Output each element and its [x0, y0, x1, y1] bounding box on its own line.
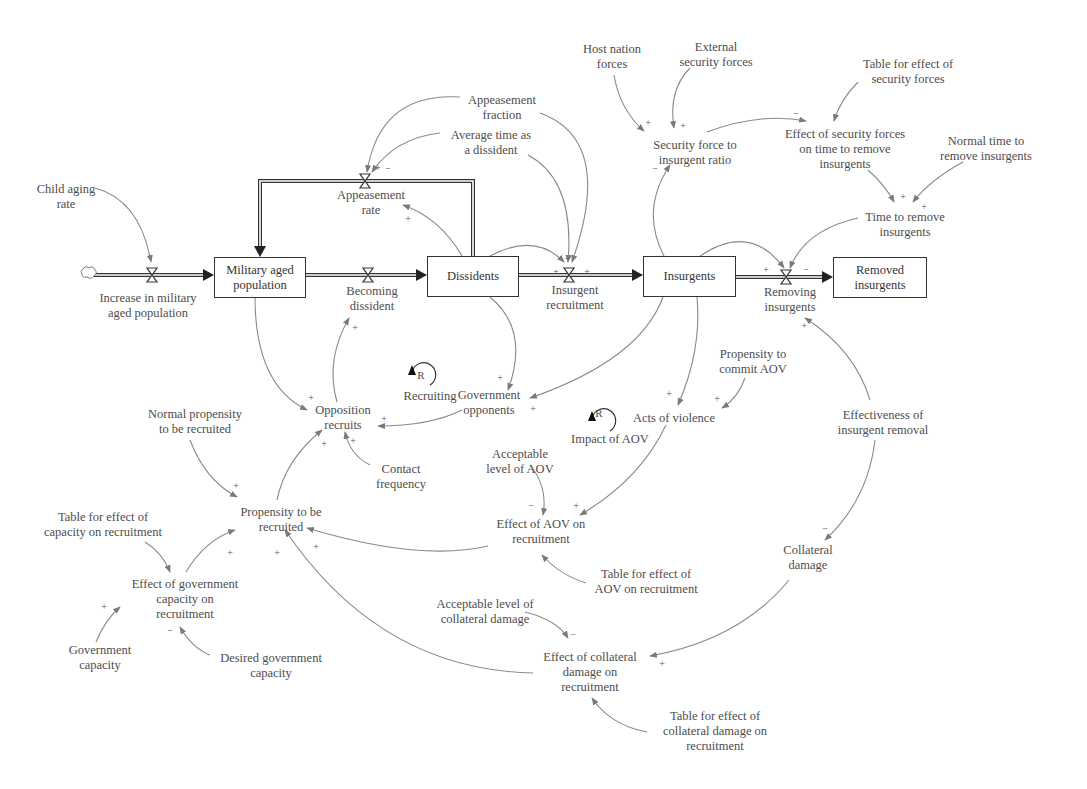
var-table-effect-security: Table for effect of security forces — [863, 57, 953, 87]
sign-minus: − — [564, 253, 570, 264]
flow-appeasement-rate: Appeasement rate — [337, 188, 405, 218]
sign-plus: + — [666, 388, 672, 399]
sign-plus: + — [274, 547, 280, 558]
flow-removing-insurgents: Removing insurgents — [764, 285, 816, 315]
sign-plus: + — [573, 500, 579, 511]
sign-plus: + — [497, 372, 503, 383]
sign-plus: + — [553, 266, 559, 277]
sign-plus: + — [645, 117, 651, 128]
sign-plus: + — [921, 201, 927, 212]
flow-insurgent-recruitment: Insurgent recruitment — [546, 283, 604, 313]
sign-plus: + — [405, 213, 411, 224]
var-normal-propensity: Normal propensity to be recruited — [148, 407, 242, 437]
var-acceptable-aov: Acceptable level of AOV — [486, 447, 553, 477]
var-acts-of-violence: Acts of violence — [633, 411, 715, 426]
sign-plus: + — [900, 191, 906, 202]
var-table-capacity: Table for effect of capacity on recruitm… — [44, 510, 162, 540]
sign-minus: − — [652, 163, 658, 174]
sign-plus: + — [763, 264, 769, 275]
var-effectiveness-removal: Effectiveness of insurgent removal — [838, 408, 928, 438]
var-effect-collateral: Effect of collateral damage on recruitme… — [543, 650, 636, 695]
sign-minus: − — [822, 523, 828, 534]
sign-minus: − — [528, 500, 534, 511]
sign-minus: − — [570, 629, 576, 640]
var-opposition-recruits: Opposition recruits — [315, 403, 371, 433]
sign-plus: + — [350, 435, 356, 446]
var-propensity-recruited: Propensity to be recruited — [240, 505, 321, 535]
stock-dissidents[interactable]: Dissidents — [427, 256, 519, 297]
sign-plus: + — [530, 403, 536, 414]
sign-minus: − — [167, 625, 173, 636]
sign-plus: + — [680, 120, 686, 131]
loop-impact-aov-symbol: R — [595, 407, 602, 419]
var-child-aging-rate: Child aging rate — [37, 182, 96, 212]
stock-removed-insurgents[interactable]: Removed insurgents — [833, 257, 927, 298]
sign-plus: + — [308, 392, 314, 403]
sign-plus: + — [714, 393, 720, 404]
var-acceptable-collateral: Acceptable level of collateral damage — [436, 597, 533, 627]
sign-plus: + — [375, 162, 381, 173]
var-desired-gov-capacity: Desired government capacity — [220, 651, 322, 681]
sign-plus: + — [352, 322, 358, 333]
var-host-nation-forces: Host nation forces — [583, 42, 641, 72]
sign-minus: − — [803, 264, 809, 275]
var-normal-time-remove: Normal time to remove insurgents — [940, 134, 1032, 164]
var-effect-security-forces: Effect of security forces on time to rem… — [785, 127, 905, 172]
sign-plus: + — [659, 658, 665, 669]
loop-impact-aov-label: Impact of AOV — [571, 432, 649, 447]
var-security-force-ratio: Security force to insurgent ratio — [653, 138, 736, 168]
loop-recruiting-symbol: R — [417, 369, 424, 381]
var-government-opponents: Government opponents — [458, 388, 520, 418]
sign-plus: + — [101, 601, 107, 612]
stock-military-aged-population[interactable]: Military aged population — [214, 257, 306, 298]
cloud-icon — [81, 267, 96, 278]
var-average-time-dissident: Average time as a dissident — [451, 128, 531, 158]
var-propensity-aov: Propensity to commit AOV — [719, 347, 787, 377]
var-time-to-remove: Time to remove insurgents — [865, 210, 944, 240]
sign-plus: + — [233, 480, 239, 491]
sign-plus: + — [801, 320, 807, 331]
stock-insurgents[interactable]: Insurgents — [643, 256, 736, 297]
var-external-security-forces: External security forces — [679, 40, 752, 70]
sign-minus: − — [385, 163, 391, 174]
var-effect-aov: Effect of AOV on recruitment — [497, 517, 586, 547]
sign-plus: + — [227, 547, 233, 558]
var-table-collateral: Table for effect of collateral damage on… — [663, 709, 767, 754]
flow-increase-military-aged: Increase in military aged population — [99, 291, 196, 321]
var-table-aov: Table for effect of AOV on recruitment — [594, 567, 697, 597]
var-appeasement-fraction: Appeasement fraction — [468, 93, 536, 123]
var-government-capacity: Government capacity — [69, 643, 131, 673]
var-collateral-damage: Collateral damage — [783, 543, 832, 573]
sign-plus: + — [381, 413, 387, 424]
sign-plus: + — [321, 438, 327, 449]
sign-plus: + — [584, 266, 590, 277]
sign-minus: − — [793, 108, 799, 119]
var-contact-frequency: Contact frequency — [376, 462, 426, 492]
var-effect-gov-capacity: Effect of government capacity on recruit… — [132, 577, 239, 622]
sign-plus: + — [313, 541, 319, 552]
loop-recruiting-label: Recruiting — [404, 389, 457, 404]
flow-becoming-dissident: Becoming dissident — [346, 284, 397, 314]
